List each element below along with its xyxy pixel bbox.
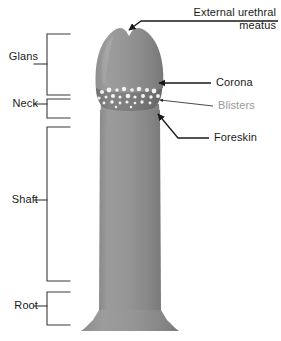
blister-dot xyxy=(97,96,100,99)
callout-label-meatus-line2: meatus xyxy=(239,19,276,31)
blister-dot xyxy=(140,100,143,103)
callout-label-meatus: External urethral meatus xyxy=(180,6,276,32)
blister-dot xyxy=(119,102,122,105)
blister-dot xyxy=(103,102,106,105)
blister-dot xyxy=(122,87,126,91)
blister-dot xyxy=(107,88,112,93)
root-base-shape xyxy=(81,310,179,331)
blister-dot xyxy=(115,106,117,108)
blisters-leader-line xyxy=(160,100,213,106)
blister-dot xyxy=(133,95,136,98)
blister-dot xyxy=(125,100,128,103)
foreskin-leader-line xyxy=(158,114,209,138)
callout-label-foreskin: Foreskin xyxy=(214,131,257,144)
bracket-glans xyxy=(47,34,70,95)
bracket-label-root: Root xyxy=(0,299,38,312)
callout-label-blisters: Blisters xyxy=(218,99,255,112)
blister-dot xyxy=(145,88,149,92)
bracket-shaft xyxy=(47,127,70,281)
bracket-neck xyxy=(47,99,70,118)
blister-dot xyxy=(110,100,114,104)
blister-dot xyxy=(111,94,115,98)
diagram-canvas xyxy=(0,0,281,341)
blister-dot xyxy=(119,96,122,99)
shaft-shape xyxy=(99,110,161,312)
callout-label-corona: Corona xyxy=(216,76,253,89)
bracket-label-shaft: Shaft xyxy=(0,193,38,206)
blister-dot xyxy=(141,94,145,98)
blister-dot xyxy=(152,89,157,94)
blister-dot xyxy=(130,88,134,92)
bracket-label-neck: Neck xyxy=(0,97,38,110)
blister-dot xyxy=(137,87,142,92)
blister-dot xyxy=(105,96,108,99)
blister-dot xyxy=(156,94,160,98)
bracket-label-glans: Glans xyxy=(0,50,38,63)
blister-dot xyxy=(126,94,131,99)
blister-dot xyxy=(100,90,104,94)
blister-dot xyxy=(149,102,152,105)
blister-dot xyxy=(134,102,137,105)
anatomy-diagram: Glans Neck Shaft Root External urethral … xyxy=(0,0,281,341)
blister-dot xyxy=(149,95,152,98)
bracket-root xyxy=(47,292,70,325)
bracket-group xyxy=(34,34,70,325)
blister-dot xyxy=(130,106,132,108)
callout-label-meatus-line1: External urethral xyxy=(194,6,276,18)
blister-dot xyxy=(115,88,118,91)
anatomy-body xyxy=(81,28,179,331)
